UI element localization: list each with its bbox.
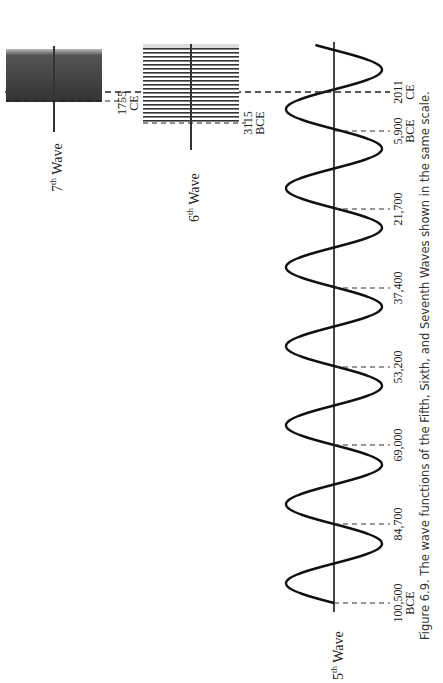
tick-label-37400: 37,400: [392, 264, 404, 312]
seventh-wave-label: 7th Wave: [46, 143, 65, 192]
tick-label-2011: 2011CE: [392, 74, 416, 110]
tick-label-69000: 69,000: [392, 421, 404, 469]
wave-chart-svg: [0, 0, 443, 683]
tick-label-3115: 3115BCE: [242, 105, 266, 141]
tick-label-21700: 21,700: [392, 185, 404, 233]
fifth-wave-label: 5th Wave: [327, 631, 346, 680]
tick-label-53200: 53,200: [392, 343, 404, 391]
sixth-wave-label: 6th Wave: [183, 173, 202, 222]
wave-figure: 5th Wave 6th Wave 7th Wave 100,500BCE 84…: [0, 0, 443, 683]
tick-label-5900: 5,900BCE: [392, 110, 416, 152]
figure-caption: Figure 6.9. The wave functions of the Fi…: [418, 91, 432, 640]
tick-label-100500: 100,500BCE: [392, 578, 416, 628]
tick-label-1755: 1755CE: [116, 85, 140, 121]
tick-label-84700: 84,700: [392, 500, 404, 548]
